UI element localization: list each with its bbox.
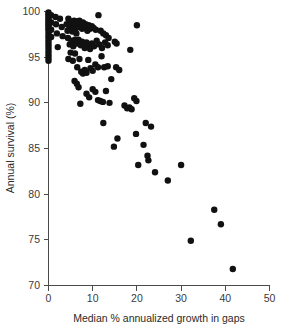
x-tick-label: 40 — [219, 292, 231, 304]
data-point — [105, 63, 111, 69]
data-point — [55, 44, 61, 50]
y-tick-label: 80 — [28, 188, 40, 200]
x-tick-label: 50 — [264, 292, 276, 304]
data-point — [92, 89, 98, 95]
y-axis-title: Annual survival (%) — [4, 103, 16, 193]
data-point — [103, 88, 109, 94]
x-tick-label: 0 — [46, 292, 52, 304]
x-tick-label: 10 — [87, 292, 99, 304]
data-point — [218, 221, 224, 227]
y-tick-label: 70 — [28, 279, 40, 291]
data-point — [48, 27, 54, 33]
data-point — [230, 266, 236, 272]
data-point — [135, 162, 141, 168]
data-point — [54, 30, 60, 36]
data-point — [211, 206, 217, 212]
data-point — [116, 67, 122, 73]
data-point — [45, 58, 51, 64]
data-point — [178, 162, 184, 168]
data-point — [100, 99, 106, 105]
data-point — [152, 169, 158, 175]
y-tick-label: 95 — [28, 51, 40, 63]
data-point — [133, 131, 139, 137]
y-axis-ticks: 707580859095100 — [22, 5, 48, 291]
data-point — [108, 76, 114, 82]
data-point — [77, 101, 83, 107]
y-tick-label: 90 — [28, 96, 40, 108]
scatter-plot-figure: 707580859095100 01020304050 Median % ann… — [0, 0, 281, 332]
data-point — [95, 64, 101, 70]
data-point — [188, 238, 194, 244]
data-points-layer — [45, 9, 236, 272]
x-tick-label: 30 — [175, 292, 187, 304]
data-point — [73, 30, 79, 36]
data-point — [53, 21, 59, 27]
data-point — [100, 120, 106, 126]
data-point — [111, 143, 117, 149]
data-point — [145, 157, 151, 163]
x-tick-label: 20 — [131, 292, 143, 304]
data-point — [57, 16, 63, 22]
data-point — [114, 135, 120, 141]
data-point — [106, 100, 112, 106]
x-axis-ticks: 01020304050 — [46, 286, 276, 305]
data-point — [140, 142, 146, 148]
y-tick-label: 85 — [28, 142, 40, 154]
data-point — [165, 177, 171, 183]
data-point — [98, 53, 104, 59]
chart-canvas: 707580859095100 01020304050 Median % ann… — [0, 0, 281, 332]
data-point — [148, 123, 154, 129]
data-point — [75, 84, 81, 90]
data-point — [105, 42, 111, 48]
data-point — [70, 58, 76, 64]
data-point — [76, 56, 82, 62]
data-point — [99, 45, 105, 51]
data-point — [85, 57, 91, 63]
y-tick-label: 100 — [22, 5, 40, 17]
data-point — [127, 47, 133, 53]
y-tick-label: 75 — [28, 233, 40, 245]
data-point — [95, 12, 101, 18]
data-point — [134, 22, 140, 28]
x-axis-title: Median % annualized growth in gaps — [73, 312, 245, 324]
data-point — [72, 50, 78, 56]
data-point — [128, 106, 134, 112]
data-point — [86, 94, 92, 100]
data-point — [48, 34, 54, 40]
data-point — [143, 120, 149, 126]
data-point — [133, 98, 139, 104]
data-point — [113, 40, 119, 46]
data-point — [90, 68, 96, 74]
